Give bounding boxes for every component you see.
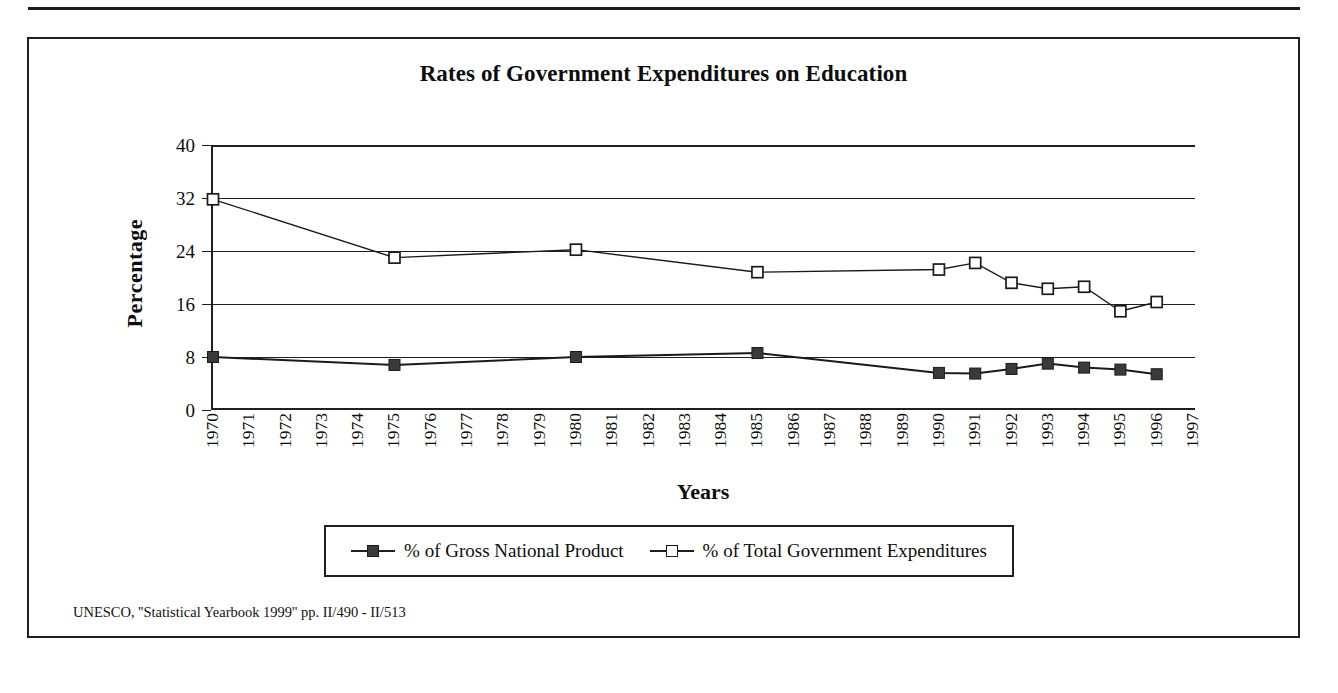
x-tick-label-1979: 1979	[531, 413, 549, 448]
y-tick-label-32: 32	[176, 189, 195, 208]
x-tick-label-1972: 1972	[277, 413, 295, 448]
legend-entry-total-gov-exp: % of Total Government Expenditures	[650, 540, 987, 562]
legend-key-filled-square-icon	[351, 543, 395, 559]
source-note: UNESCO, ''Statistical Yearbook 1999'' pp…	[73, 604, 406, 621]
y-tick-label-24: 24	[176, 242, 195, 261]
x-tick-label-1988: 1988	[858, 413, 876, 448]
x-tick-label-1989: 1989	[894, 413, 912, 448]
x-tick-label-1985: 1985	[749, 413, 767, 448]
x-tick-label-1997: 1997	[1184, 413, 1202, 448]
gridline-0	[211, 408, 1195, 410]
gridline-16	[211, 304, 1195, 305]
x-tick-label-1970: 1970	[204, 413, 222, 448]
x-tick-label-1982: 1982	[640, 413, 658, 448]
plot-area: 0816243240	[211, 145, 1195, 410]
y-tick-mark-8	[202, 357, 211, 358]
open-square-icon	[666, 545, 678, 557]
x-tick-label-1973: 1973	[313, 413, 331, 448]
x-tick-label-1992: 1992	[1003, 413, 1021, 448]
x-tick-label-1987: 1987	[821, 413, 839, 448]
plot-frame	[211, 145, 1195, 410]
x-tick-label-1993: 1993	[1039, 413, 1057, 448]
y-tick-label-16: 16	[176, 295, 195, 314]
gridline-8	[211, 357, 1195, 358]
gridline-32	[211, 198, 1195, 199]
y-tick-mark-0	[202, 410, 211, 411]
x-tick-label-1994: 1994	[1075, 413, 1093, 448]
y-tick-mark-16	[202, 304, 211, 305]
gridline-40	[211, 145, 1195, 147]
chart-legend: % of Gross National Product % of Total G…	[324, 525, 1014, 577]
gridline-24	[211, 251, 1195, 252]
legend-label-total-gov-exp: % of Total Government Expenditures	[703, 540, 987, 562]
legend-label-gnp: % of Gross National Product	[404, 540, 624, 562]
x-tick-label-1971: 1971	[241, 413, 259, 448]
x-tick-label-1991: 1991	[966, 413, 984, 448]
y-tick-mark-24	[202, 251, 211, 252]
y-axis-title: Percentage	[122, 219, 162, 327]
chart-title: Rates of Government Expenditures on Educ…	[29, 61, 1298, 87]
page-top-rule	[28, 7, 1300, 10]
x-tick-label-1995: 1995	[1112, 413, 1130, 448]
x-axis-title: Years	[211, 479, 1195, 505]
y-tick-mark-40	[202, 145, 211, 146]
x-tick-label-1996: 1996	[1148, 413, 1166, 448]
x-tick-label-1974: 1974	[349, 413, 367, 448]
legend-entry-gnp: % of Gross National Product	[351, 540, 624, 562]
filled-square-icon	[367, 545, 379, 557]
x-tick-label-1978: 1978	[495, 413, 513, 448]
x-tick-label-1976: 1976	[422, 413, 440, 448]
x-tick-label-1984: 1984	[712, 413, 730, 448]
x-tick-label-1990: 1990	[930, 413, 948, 448]
x-tick-label-1975: 1975	[386, 413, 404, 448]
x-tick-label-1981: 1981	[604, 413, 622, 448]
y-tick-mark-32	[202, 198, 211, 199]
x-tick-label-1983: 1983	[676, 413, 694, 448]
y-tick-label-0: 0	[186, 401, 196, 420]
x-tick-label-1977: 1977	[458, 413, 476, 448]
x-tick-label-1986: 1986	[785, 413, 803, 448]
y-tick-label-40: 40	[176, 136, 195, 155]
figure-container: Rates of Government Expenditures on Educ…	[27, 37, 1300, 638]
y-tick-label-8: 8	[186, 348, 196, 367]
x-tick-label-1980: 1980	[567, 413, 585, 448]
legend-key-open-square-icon	[650, 543, 694, 559]
